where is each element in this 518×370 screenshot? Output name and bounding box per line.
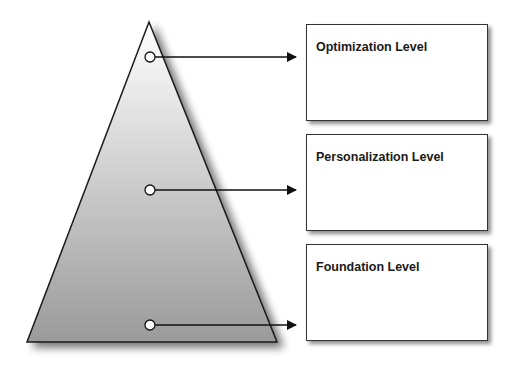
node-circle-icon	[145, 52, 155, 62]
node-circle-icon	[145, 185, 155, 195]
personalization-level-label: Personalization Level	[316, 150, 444, 164]
foundation-level-box: Foundation Level	[306, 244, 488, 341]
node-circle-icon	[145, 320, 155, 330]
personalization-level-box: Personalization Level	[306, 134, 488, 231]
optimization-level-label: Optimization Level	[316, 40, 427, 54]
optimization-level-box: Optimization Level	[306, 24, 488, 121]
connector-optimization	[145, 52, 296, 62]
foundation-level-label: Foundation Level	[316, 260, 419, 274]
pyramid-shape	[27, 22, 277, 342]
